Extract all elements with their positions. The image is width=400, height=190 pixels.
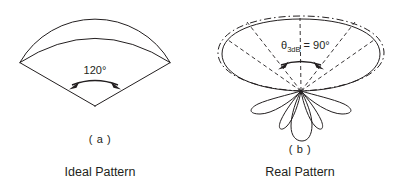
real-beam-edge-line-3 bbox=[300, 18, 301, 91]
real-pattern-diagram: θ3dB = 90° bbox=[218, 16, 384, 141]
figure-root: 120° θ3dB = 90° bbox=[0, 0, 400, 190]
ideal-pattern-diagram: 120° bbox=[20, 19, 170, 106]
panel-a-caption-letter: ( a ) bbox=[0, 133, 200, 145]
real-beam-edge-line-4 bbox=[301, 22, 355, 91]
real-beamwidth-label: θ3dB = 90° bbox=[281, 39, 330, 54]
panel-b-caption-name: Real Pattern bbox=[200, 165, 400, 179]
antenna-pattern-figure: 120° θ3dB = 90° bbox=[0, 0, 400, 190]
panel-b-caption-letter: ( b ) bbox=[200, 143, 400, 155]
theta-subscript: 3dB bbox=[287, 45, 300, 54]
real-beam-edge-line-2 bbox=[247, 22, 301, 91]
panel-a-caption-name: Ideal Pattern bbox=[0, 165, 200, 179]
ideal-sector-outline bbox=[20, 19, 170, 106]
ideal-angle-label: 120° bbox=[84, 64, 107, 76]
ideal-sector-arc-highlight bbox=[20, 38, 170, 62]
theta-equals: = 90° bbox=[300, 39, 329, 51]
real-side-lobe-far-right bbox=[301, 91, 351, 114]
